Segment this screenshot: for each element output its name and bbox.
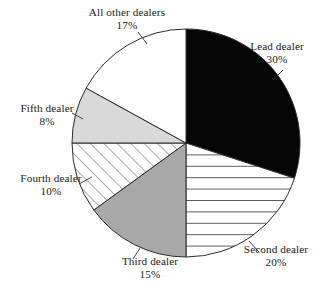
pie-label-second-dealer-value: 20% [228, 256, 324, 269]
pie-label-third-dealer-name: Third dealer [98, 255, 202, 268]
pie-chart-figure: All other dealers 17% Lead dealer 30% Se… [0, 0, 325, 287]
pie-label-fourth-dealer: Fourth dealer 10% [2, 172, 100, 198]
pie-label-fourth-dealer-name: Fourth dealer [2, 172, 100, 185]
pie-label-all-other-dealers-name: All other dealers [62, 6, 192, 19]
pie-label-second-dealer-name: Second dealer [228, 243, 324, 256]
pie-label-fifth-dealer: Fifth dealer 8% [2, 102, 92, 128]
pie-label-lead-dealer-name: Lead dealer [232, 40, 322, 53]
pie-label-third-dealer: Third dealer 15% [98, 255, 202, 281]
pie-label-lead-dealer-value: 30% [232, 53, 322, 66]
pie-label-fifth-dealer-name: Fifth dealer [2, 102, 92, 115]
pie-label-fifth-dealer-value: 8% [2, 115, 92, 128]
pie-label-fourth-dealer-value: 10% [2, 185, 100, 198]
pie-label-all-other-dealers-value: 17% [62, 19, 192, 32]
pie-label-second-dealer: Second dealer 20% [228, 243, 324, 269]
pie-label-lead-dealer: Lead dealer 30% [232, 40, 322, 66]
pie-label-third-dealer-value: 15% [98, 268, 202, 281]
pie-label-all-other-dealers: All other dealers 17% [62, 6, 192, 32]
